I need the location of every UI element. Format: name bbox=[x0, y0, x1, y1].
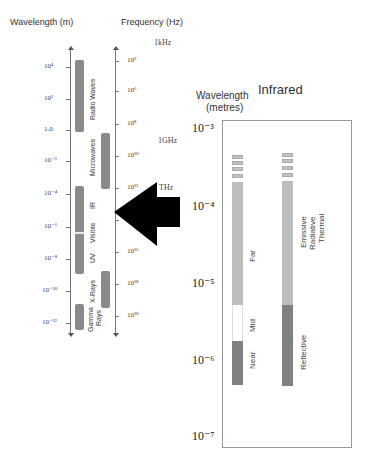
emissive-continuation-dash bbox=[282, 166, 293, 170]
wavelength-header: Wavelength (m) bbox=[10, 17, 73, 27]
far-label: Far bbox=[248, 250, 257, 262]
uv-label: UV bbox=[89, 253, 96, 263]
gamma-label: Gamma bbox=[87, 307, 94, 332]
wl-tick bbox=[66, 130, 70, 131]
infrared-title: Infrared bbox=[258, 82, 303, 97]
freq-tick bbox=[115, 91, 119, 92]
wl-tick-label: 10² bbox=[44, 94, 53, 102]
ir-tick-label: 10⁻⁷ bbox=[192, 429, 215, 444]
freq-tick-label: 10¹⁰ bbox=[127, 151, 139, 159]
wl-tick bbox=[66, 291, 70, 292]
ir-tick-label: 10⁻³ bbox=[192, 121, 214, 136]
far-continuation-dash bbox=[232, 167, 243, 171]
freq-tick-label: 10⁵ bbox=[127, 56, 136, 64]
ir-tick-label: 10⁻⁵ bbox=[192, 276, 215, 291]
freq-tick bbox=[115, 124, 119, 125]
freq-tick-label: 10⁸ bbox=[127, 119, 136, 127]
wl-tick-label: 10⁻¹⁰ bbox=[42, 286, 58, 294]
freq-tick-label: 10²⁰ bbox=[127, 311, 139, 319]
visible-band-marker bbox=[75, 232, 84, 234]
microwaves-label: Microwaves bbox=[89, 139, 96, 176]
wl-tick bbox=[66, 259, 70, 260]
freq-tick bbox=[115, 156, 119, 157]
arrow-left-icon bbox=[112, 180, 182, 248]
emissive-continuation-dash bbox=[282, 173, 293, 177]
freq-tick bbox=[115, 61, 119, 62]
radio-waves-bar bbox=[75, 60, 84, 132]
frequency-header: Frequency (Hz) bbox=[121, 17, 183, 27]
far-continuation-dash bbox=[232, 174, 243, 178]
wl-tick bbox=[66, 227, 70, 228]
reflective-segment bbox=[282, 305, 293, 386]
wl-tick-label: 10⁴ bbox=[44, 62, 53, 70]
wl-tick-label: 10⁻⁸ bbox=[44, 254, 57, 262]
ir-tick-label: 10⁻⁶ bbox=[192, 353, 215, 368]
reflective-label: Reflective bbox=[299, 335, 308, 370]
wl-tick bbox=[66, 323, 70, 324]
ir-axis-title-line1: Wavelength bbox=[196, 90, 248, 101]
axis-arrow-up-icon bbox=[68, 46, 74, 50]
xrays-label: X-Rays bbox=[89, 280, 96, 303]
ir-tick-label: 10⁻⁴ bbox=[192, 199, 215, 214]
freq-tick bbox=[115, 252, 119, 253]
emissive-continuation-dash bbox=[282, 153, 293, 157]
freq-tick-label: 10¹⁸ bbox=[127, 279, 139, 287]
wl-tick-label: 10⁻² bbox=[44, 156, 57, 164]
far-continuation-dash bbox=[232, 161, 243, 165]
wavelength-axis bbox=[70, 49, 71, 334]
ir-axis-title-line2: (metres) bbox=[206, 102, 243, 113]
emissive-continuation-dash bbox=[282, 159, 293, 163]
freq-tick bbox=[115, 316, 119, 317]
microwaves-bar bbox=[101, 133, 110, 189]
freq-note-1ghz: 1GHz bbox=[158, 136, 177, 145]
freq-tick-label: 10⁶ bbox=[127, 86, 136, 94]
wl-tick bbox=[66, 194, 70, 195]
freq-tick bbox=[115, 284, 119, 285]
xrays-bar bbox=[101, 271, 110, 308]
freq-note-1khz: 1kHz bbox=[154, 38, 171, 47]
near-label: Near bbox=[248, 352, 257, 369]
wl-tick-label: 10⁻¹² bbox=[42, 318, 57, 326]
near-ir-segment bbox=[232, 341, 243, 385]
radiative-label: Radiative bbox=[308, 217, 317, 250]
axis-arrow-down-icon bbox=[113, 333, 119, 337]
far-ir-segment bbox=[232, 182, 243, 305]
wl-tick bbox=[66, 67, 70, 68]
radio-waves-label: Radio Waves bbox=[89, 79, 96, 120]
gamma-rays-bar bbox=[75, 304, 84, 330]
wl-tick-label: 10⁻⁴ bbox=[44, 189, 57, 197]
rays-label: Rays bbox=[95, 310, 102, 326]
emissive-segment bbox=[282, 181, 293, 305]
wl-tick bbox=[66, 161, 70, 162]
mid-label: Mid bbox=[248, 319, 257, 332]
wl-tick-label: 1.0 bbox=[44, 125, 53, 133]
axis-arrow-down-icon bbox=[68, 333, 74, 337]
wl-tick bbox=[66, 99, 70, 100]
wl-tick-label: 10⁻⁶ bbox=[44, 222, 57, 230]
mid-ir-segment bbox=[232, 305, 243, 341]
far-continuation-dash bbox=[232, 155, 243, 159]
axis-arrow-up-icon bbox=[113, 46, 119, 50]
emissive-label: Emissive bbox=[299, 216, 308, 248]
freq-tick-label: 10¹⁶ bbox=[127, 247, 139, 255]
ir-label: IR bbox=[89, 202, 96, 209]
thermal-label: Thermal bbox=[317, 214, 326, 243]
visible-label: Visible bbox=[89, 223, 96, 244]
ir-visible-uv-bar bbox=[75, 186, 84, 274]
